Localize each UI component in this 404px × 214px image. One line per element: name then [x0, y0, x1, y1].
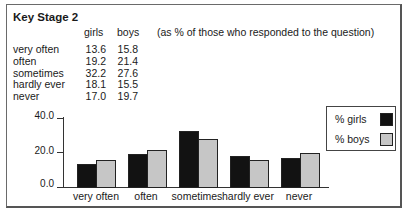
bar-boys — [198, 139, 218, 188]
bar-boys — [147, 150, 167, 188]
row-label: often — [13, 55, 36, 67]
bar-boys — [300, 153, 320, 188]
y-tick-label: 0.0 — [24, 178, 54, 189]
column-header-boys: boys — [117, 26, 139, 38]
cell-girls: 19.2 — [80, 55, 106, 67]
legend-swatch-boys — [380, 133, 393, 146]
cell-boys: 15.8 — [112, 43, 138, 55]
bar-girls — [77, 164, 97, 188]
cell-girls: 13.6 — [80, 43, 106, 55]
cell-girls: 17.0 — [80, 90, 106, 102]
cell-girls: 18.1 — [80, 78, 106, 90]
bar-girls — [179, 131, 199, 188]
y-axis — [63, 117, 64, 188]
cell-boys: 15.5 — [112, 78, 138, 90]
bar-boys — [249, 160, 269, 188]
legend-label-boys: % boys — [335, 133, 369, 145]
y-tick-label: 20.0 — [24, 145, 54, 156]
y-tick-label: 40.0 — [24, 110, 54, 121]
legend-swatch-girls — [380, 113, 393, 126]
chart-title: Key Stage 2 — [13, 11, 78, 23]
bar-girls — [128, 154, 148, 188]
cell-boys: 21.4 — [112, 55, 138, 67]
row-label: hardly ever — [13, 78, 65, 90]
row-label: very often — [13, 43, 59, 55]
chart-legend: % girls % boys — [326, 106, 396, 151]
bar-girls — [230, 156, 250, 188]
row-label: never — [13, 90, 39, 102]
chart-note: (as % of those who responded to the ques… — [157, 26, 374, 38]
legend-label-girls: % girls — [335, 113, 367, 125]
bar-boys — [96, 160, 116, 188]
cell-boys: 19.7 — [112, 90, 138, 102]
bar-girls — [281, 158, 301, 188]
x-label: never — [269, 190, 329, 202]
column-header-girls: girls — [84, 26, 103, 38]
